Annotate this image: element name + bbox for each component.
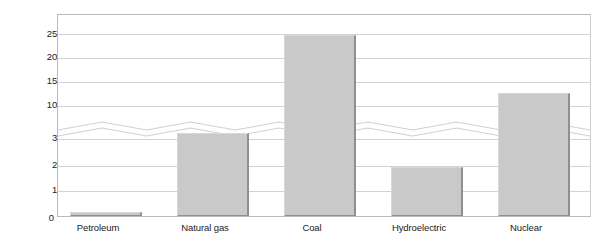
y-axis-tick-label: 2 xyxy=(27,160,57,169)
y-axis-tick-label: 15 xyxy=(27,76,57,85)
y-axis-tick-label: 25 xyxy=(27,29,57,38)
bar-nuclear[interactable] xyxy=(498,93,570,217)
bar-petroleum[interactable] xyxy=(70,212,142,217)
y-axis-tick-label-zero: 0 xyxy=(40,212,54,223)
bar-chart: 25 20 15 10 3 2 1 0 Petroleum Natural ga… xyxy=(0,0,600,241)
bar-hydroelectric[interactable] xyxy=(391,167,463,217)
plot-area xyxy=(57,14,591,217)
y-axis-tick-label: 10 xyxy=(27,100,57,109)
bar-coal[interactable] xyxy=(284,35,356,217)
y-axis-tick-label: 20 xyxy=(27,52,57,61)
gridline-0-baseline xyxy=(58,216,590,217)
bar-natural-gas[interactable] xyxy=(177,133,249,217)
x-axis-label-nuclear: Nuclear xyxy=(461,223,591,233)
y-axis-tick-label: 1 xyxy=(27,185,57,194)
y-axis-tick-label: 3 xyxy=(27,133,57,142)
